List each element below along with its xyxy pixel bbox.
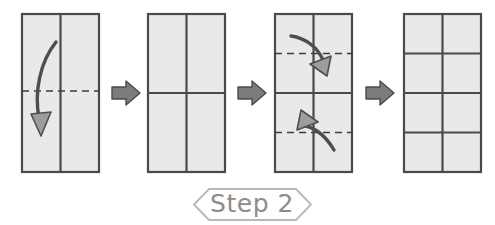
transition-arrow-panel3-to-panel4 bbox=[366, 81, 394, 105]
panel-1 bbox=[22, 14, 99, 172]
transition-arrow-3-glyph bbox=[366, 81, 394, 105]
transition-arrow-1-glyph bbox=[112, 81, 140, 105]
panel-2 bbox=[148, 14, 225, 172]
transition-arrow-panel1-to-panel2 bbox=[112, 81, 140, 105]
panel-3 bbox=[275, 14, 352, 172]
transition-arrow-2-glyph bbox=[238, 81, 266, 105]
step-banner-label: Step 2 bbox=[210, 189, 294, 218]
step-banner: Step 2 bbox=[194, 189, 311, 220]
origami-step-diagram: Step 2 bbox=[0, 0, 495, 225]
panel-4 bbox=[404, 14, 481, 172]
diagram-canvas: Step 2 bbox=[0, 0, 495, 225]
transition-arrow-panel2-to-panel3 bbox=[238, 81, 266, 105]
